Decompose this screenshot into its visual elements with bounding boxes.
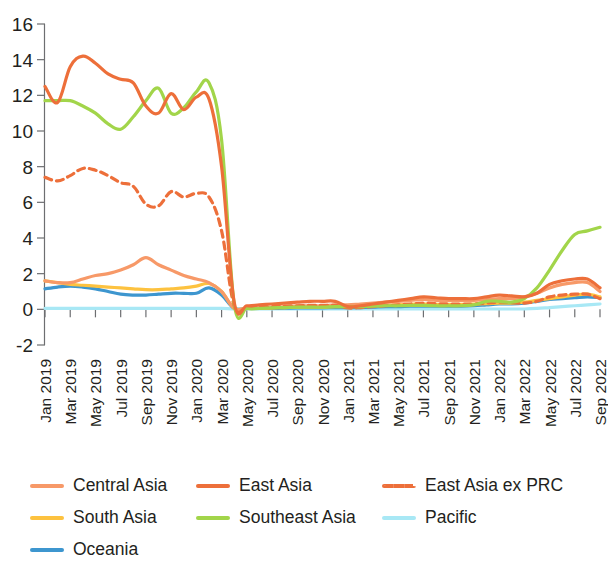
y-tick-label: 0 (22, 299, 33, 320)
y-tick-label: 12 (12, 85, 33, 106)
legend-row: Oceania (30, 534, 608, 566)
y-tick-label: 8 (22, 157, 33, 178)
legend-swatch-icon (196, 516, 230, 520)
x-tick-label: Sep 2022 (592, 359, 608, 425)
x-tick-label: May 2019 (87, 359, 104, 427)
legend-item-east-asia-ex-prc[interactable]: East Asia ex PRC (382, 470, 592, 502)
x-tick-label: Nov 2019 (163, 359, 180, 425)
legend-item-oceania[interactable]: Oceania (30, 534, 196, 566)
legend-label: South Asia (73, 509, 157, 527)
y-tick-label: 4 (22, 228, 33, 249)
legend-item-east-asia[interactable]: East Asia (196, 470, 382, 502)
x-tick-label: Jul 2022 (567, 359, 584, 418)
y-tick-labels: -20246810121416 (12, 14, 34, 356)
legend-label: Central Asia (73, 477, 167, 495)
x-tick-label: Jan 2021 (340, 359, 357, 423)
series-lines (45, 56, 600, 318)
y-tick-label: 6 (22, 192, 33, 213)
legend-label: Oceania (73, 541, 138, 559)
x-tick-label: Sep 2020 (289, 359, 306, 426)
x-tick-label: Mar 2021 (365, 359, 382, 424)
legend-row: South Asia Southeast Asia Pacific (30, 502, 608, 534)
chart-legend: Central Asia East Asia East Asia ex PRC … (0, 470, 608, 570)
legend-item-southeast-asia[interactable]: Southeast Asia (196, 502, 382, 534)
x-tick-label: Sep 2021 (441, 359, 458, 425)
legend-label: East Asia (239, 477, 312, 495)
y-tick-label: 14 (12, 50, 34, 71)
plot-area: -20246810121416 Jan 2019Mar 2019May 2019… (0, 0, 608, 470)
x-tick-label: Jan 2019 (37, 359, 54, 423)
x-tick-label: May 2022 (542, 359, 559, 427)
legend-swatch-icon (196, 484, 230, 488)
series-line-southeast-asia (45, 80, 600, 319)
x-tick-label: May 2021 (390, 359, 407, 427)
series-line-east-asia-ex-prc (45, 168, 600, 312)
x-tick-label: Jan 2022 (491, 359, 508, 423)
x-tick-label: May 2020 (239, 359, 256, 427)
y-axis (37, 24, 45, 345)
x-tick-label: Mar 2022 (516, 359, 533, 424)
x-tick-label: Jul 2019 (113, 359, 130, 418)
legend-item-central-asia[interactable]: Central Asia (30, 470, 196, 502)
x-tick-labels: Jan 2019Mar 2019May 2019Jul 2019Sep 2019… (37, 359, 608, 427)
x-tick-label: Jan 2020 (188, 359, 205, 423)
x-tick-label: Nov 2020 (315, 359, 332, 426)
x-tick-label: Jul 2021 (415, 359, 432, 418)
y-tick-marks (37, 24, 45, 345)
legend-swatch-icon (382, 516, 416, 520)
y-tick-label: 10 (12, 121, 33, 142)
line-chart: -20246810121416 Jan 2019Mar 2019May 2019… (0, 0, 608, 570)
legend-swatch-icon (382, 484, 416, 488)
legend-swatch-icon (30, 484, 64, 488)
x-tick-label: Mar 2019 (62, 359, 79, 424)
x-tick-label: Nov 2021 (466, 359, 483, 425)
legend-swatch-icon (30, 516, 64, 520)
y-tick-label: 2 (22, 264, 33, 285)
legend-item-south-asia[interactable]: South Asia (30, 502, 196, 534)
legend-label: Pacific (425, 509, 477, 527)
legend-label: East Asia ex PRC (425, 477, 563, 495)
x-tick-label: Mar 2020 (214, 359, 231, 425)
legend-swatch-icon (30, 548, 64, 552)
y-tick-label: 16 (12, 14, 33, 35)
legend-item-pacific[interactable]: Pacific (382, 502, 592, 534)
x-tick-label: Jul 2020 (264, 359, 281, 418)
y-tick-label: -2 (16, 335, 33, 356)
legend-label: Southeast Asia (239, 509, 356, 527)
legend-row: Central Asia East Asia East Asia ex PRC (30, 470, 608, 502)
x-tick-label: Sep 2019 (138, 359, 155, 425)
